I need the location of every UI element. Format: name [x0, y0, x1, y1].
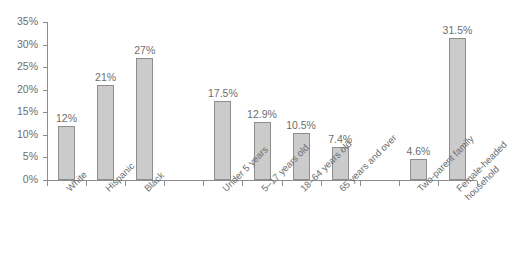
x-axis-tick-mark — [164, 181, 165, 186]
y-axis-tick-label: 25% — [17, 60, 38, 73]
bar-value-label: 21% — [95, 71, 116, 83]
y-axis-tick-label: 10% — [17, 128, 38, 141]
bar-value-label: 17.5% — [208, 87, 238, 99]
x-axis-tick-mark — [242, 181, 243, 186]
x-axis-tick-mark — [47, 181, 48, 186]
x-axis-tick-mark — [86, 181, 87, 186]
y-axis-tick-label: 20% — [17, 83, 38, 96]
x-axis-tick-mark — [438, 181, 439, 186]
bar-value-label: 10.5% — [286, 119, 316, 131]
x-axis-tick-mark — [203, 181, 204, 186]
y-axis-tick-label: 15% — [17, 105, 38, 118]
y-axis-tick-label: 5% — [23, 150, 38, 163]
bar-value-label: 12.9% — [247, 108, 277, 120]
y-axis-tick-label: 30% — [17, 38, 38, 51]
bar — [97, 85, 114, 180]
x-axis-tick-mark — [321, 181, 322, 186]
y-axis-tick-label: 35% — [17, 15, 38, 28]
bar — [214, 101, 231, 180]
bar — [58, 126, 75, 180]
bar-value-label: 4.6% — [406, 145, 430, 157]
x-axis-tick-mark — [125, 181, 126, 186]
x-axis-tick-mark — [282, 181, 283, 186]
y-axis-tick-label: 0% — [23, 173, 38, 186]
bar — [136, 58, 153, 180]
x-axis-tick-mark — [360, 181, 361, 186]
bar-value-label: 12% — [56, 112, 77, 124]
x-axis-tick-mark — [399, 181, 400, 186]
bar-value-label: 31.5% — [443, 24, 473, 36]
bar-value-label: 27% — [134, 44, 155, 56]
